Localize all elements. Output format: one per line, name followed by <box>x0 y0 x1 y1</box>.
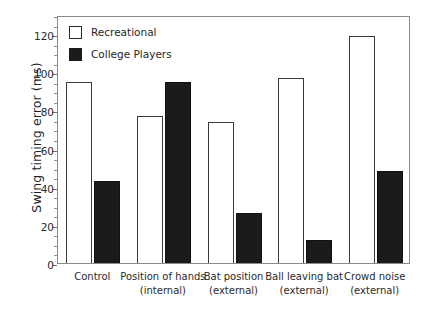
tick-mark <box>54 46 57 47</box>
tick-mark <box>54 236 57 237</box>
tick-mark <box>54 122 57 123</box>
tick-mark <box>54 198 57 199</box>
plot-area: Recreational College Players 02040608010… <box>57 16 410 264</box>
y-tick-label: 20 <box>41 221 54 233</box>
tick-mark <box>54 179 57 180</box>
y-tick-label: 100 <box>34 68 54 80</box>
bar-recreational-1 <box>137 116 163 263</box>
tick-mark <box>54 27 57 28</box>
bar-recreational-4 <box>349 36 375 263</box>
bar-college-players-1 <box>165 82 191 263</box>
tick-mark <box>54 65 57 66</box>
tick-mark <box>54 170 57 171</box>
y-tick-label: 80 <box>41 106 54 118</box>
bar-chart-figure: Swing timing error (ms) Recreational Col… <box>0 0 435 314</box>
bar-college-players-0 <box>94 181 120 263</box>
tick-mark <box>54 141 57 142</box>
bar-recreational-0 <box>66 82 92 263</box>
x-axis-category-labels: ControlPosition of hands(internal)Bat po… <box>57 270 410 314</box>
x-axis-label-4: Crowd noise(external) <box>344 270 405 298</box>
x-axis-label-0: Control <box>74 270 110 284</box>
tick-mark <box>54 93 57 94</box>
bar-college-players-4 <box>377 171 403 263</box>
y-tick-label: 120 <box>34 30 54 42</box>
tick-mark <box>54 160 57 161</box>
x-axis-label-1: Position of hands(internal) <box>120 270 205 298</box>
bars-layer <box>58 17 409 263</box>
tick-mark <box>54 246 57 247</box>
x-axis-label-2: Bat position(external) <box>204 270 264 298</box>
y-tick-label: 0 <box>47 259 54 271</box>
bar-college-players-3 <box>306 240 332 263</box>
bar-recreational-2 <box>208 122 234 263</box>
tick-mark <box>54 208 57 209</box>
tick-mark <box>54 255 57 256</box>
bar-recreational-3 <box>278 78 304 263</box>
tick-mark <box>54 55 57 56</box>
tick-mark <box>54 17 57 18</box>
tick-mark <box>54 84 57 85</box>
tick-mark <box>54 103 57 104</box>
y-tick-label: 40 <box>41 183 54 195</box>
y-tick-label: 60 <box>41 145 54 157</box>
x-axis-label-3: Ball leaving bat(external) <box>265 270 343 298</box>
bar-college-players-2 <box>236 213 262 263</box>
tick-mark <box>54 217 57 218</box>
tick-mark <box>54 131 57 132</box>
